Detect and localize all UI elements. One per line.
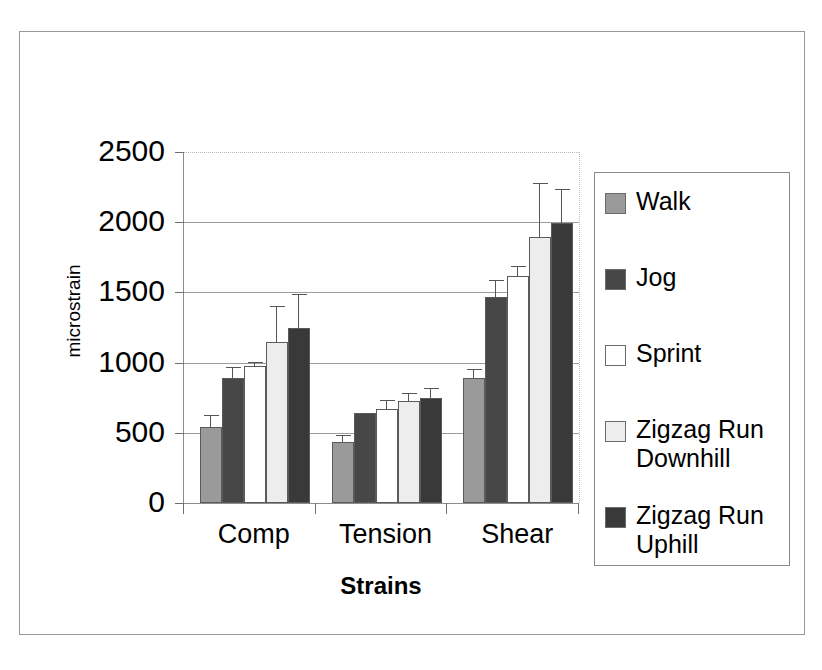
error-bar-line — [539, 184, 540, 237]
bar-tension-jog[interactable] — [354, 152, 376, 503]
chart-legend: WalkJogSprintZigzag Run DownhillZigzag R… — [594, 172, 790, 566]
y-tick-1000 — [175, 363, 184, 364]
bar-rect — [551, 223, 573, 503]
bar-rect — [376, 409, 398, 503]
x-tick-3 — [578, 503, 579, 514]
legend-item-zigzag-run-uphill[interactable]: Zigzag Run Uphill — [605, 501, 789, 587]
error-bar-cap — [489, 280, 504, 281]
bar-tension-sprint[interactable] — [376, 152, 398, 503]
bar-comp-zigzag-run-uphill[interactable] — [288, 152, 310, 503]
y-tick-label-1000: 1000 — [69, 347, 165, 377]
legend-item-label: Jog — [636, 263, 676, 292]
bars-layer — [184, 152, 579, 503]
bar-rect — [463, 378, 485, 503]
error-bar-cap — [204, 415, 219, 416]
error-bar-line — [430, 389, 431, 398]
bar-rect — [507, 276, 529, 503]
y-tick-label-2000: 2000 — [69, 206, 165, 236]
legend-item-walk[interactable]: Walk — [605, 187, 789, 263]
error-bar-cap — [533, 183, 548, 184]
error-bar-cap — [424, 388, 439, 389]
bar-group-comp — [200, 152, 310, 503]
bar-group-shear — [463, 152, 573, 503]
error-bar-cap — [555, 189, 570, 190]
legend-swatch-jog — [605, 269, 626, 290]
y-tick-label-0: 0 — [69, 487, 165, 517]
y-tick-label-1500: 1500 — [69, 276, 165, 306]
legend-item-jog[interactable]: Jog — [605, 263, 789, 339]
legend-swatch-zigzag-downhill — [605, 421, 626, 442]
bar-rect — [288, 328, 310, 504]
error-bar-line — [342, 436, 343, 442]
y-tick-1500 — [175, 292, 184, 293]
x-axis-ticks — [183, 503, 579, 515]
y-tick-2500 — [175, 152, 184, 153]
bar-shear-zigzag-run-uphill[interactable] — [551, 152, 573, 503]
y-axis-tick-labels: 05001000150020002500 — [60, 0, 165, 670]
plot-right-edge — [579, 152, 580, 503]
bar-rect — [420, 398, 442, 503]
error-bar-cap — [511, 266, 526, 267]
x-tick-2 — [446, 503, 447, 514]
error-bar-cap — [336, 435, 351, 436]
x-axis-category-labels: CompTensionShear — [183, 519, 579, 553]
y-tick-label-500: 500 — [69, 417, 165, 447]
bar-shear-jog[interactable] — [485, 152, 507, 503]
bar-rect — [222, 378, 244, 503]
error-bar-line — [298, 295, 299, 328]
error-bar-cap — [270, 306, 285, 307]
bar-rect — [485, 297, 507, 503]
bar-tension-zigzag-run-downhill[interactable] — [398, 152, 420, 503]
legend-swatch-zigzag-uphill — [605, 507, 626, 528]
legend-swatch-walk — [605, 193, 626, 214]
bar-shear-sprint[interactable] — [507, 152, 529, 503]
error-bar-line — [386, 401, 387, 409]
legend-item-sprint[interactable]: Sprint — [605, 339, 789, 415]
bar-rect — [244, 366, 266, 503]
bar-rect — [354, 413, 376, 503]
bar-rect — [332, 442, 354, 503]
bar-rect — [529, 237, 551, 503]
error-bar-line — [232, 368, 233, 378]
error-bar-line — [408, 394, 409, 402]
legend-item-label: Zigzag Run Uphill — [636, 501, 764, 559]
legend-item-zigzag-run-downhill[interactable]: Zigzag Run Downhill — [605, 415, 789, 501]
error-bar-line — [561, 190, 562, 223]
bar-rect — [266, 342, 288, 503]
bar-group-tension — [332, 152, 442, 503]
y-tick-label-2500: 2500 — [69, 136, 165, 166]
error-bar-cap — [248, 362, 263, 363]
x-tick-1 — [315, 503, 316, 514]
bar-rect — [200, 427, 222, 503]
bar-comp-sprint[interactable] — [244, 152, 266, 503]
error-bar-cap — [380, 400, 395, 401]
bar-shear-zigzag-run-downhill[interactable] — [529, 152, 551, 503]
error-bar-cap — [402, 393, 417, 394]
error-bar-line — [210, 416, 211, 427]
x-axis-title: Strains — [183, 572, 579, 600]
error-bar-line — [473, 370, 474, 378]
error-bar-line — [276, 307, 277, 341]
bar-shear-walk[interactable] — [463, 152, 485, 503]
bar-tension-walk[interactable] — [332, 152, 354, 503]
bar-tension-zigzag-run-uphill[interactable] — [420, 152, 442, 503]
x-tick-0 — [183, 503, 184, 514]
bar-chart: microstrain 05001000150020002500 CompTen… — [0, 0, 822, 670]
y-tick-500 — [175, 433, 184, 434]
error-bar-line — [495, 281, 496, 296]
bar-comp-zigzag-run-downhill[interactable] — [266, 152, 288, 503]
bar-comp-jog[interactable] — [222, 152, 244, 503]
error-bar-cap — [467, 369, 482, 370]
error-bar-cap — [226, 367, 241, 368]
legend-item-label: Zigzag Run Downhill — [636, 415, 764, 473]
bar-rect — [398, 401, 420, 503]
legend-item-label: Walk — [636, 187, 691, 216]
error-bar-cap — [292, 294, 307, 295]
y-tick-2000 — [175, 222, 184, 223]
bar-comp-walk[interactable] — [200, 152, 222, 503]
x-category-label-shear: Shear — [437, 519, 597, 550]
legend-item-label: Sprint — [636, 339, 701, 368]
error-bar-line — [254, 363, 255, 367]
plot-area — [183, 152, 579, 504]
error-bar-line — [517, 267, 518, 275]
